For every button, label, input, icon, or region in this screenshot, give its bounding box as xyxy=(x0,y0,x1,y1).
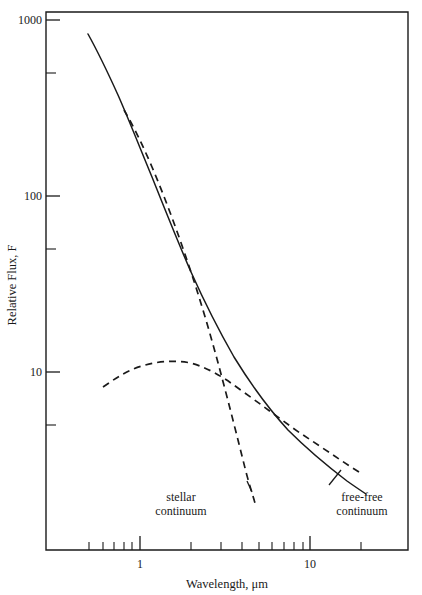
y-tick-label-10: 10 xyxy=(30,365,42,379)
series-stellar-continuum xyxy=(124,110,255,503)
x-tick-label-1: 1 xyxy=(137,557,143,571)
stellar-continuum-label-line2: continuum xyxy=(155,504,207,518)
free-free-continuum-label-line1: free-free xyxy=(341,490,382,504)
x-tick-label-10: 10 xyxy=(304,557,316,571)
stellar-continuum-leader xyxy=(247,481,252,492)
stellar-continuum-label-line1: stellar xyxy=(166,490,195,504)
y-axis-title: Relative Flux, F xyxy=(5,245,19,326)
stellar-continuum-annotation: stellar continuum xyxy=(155,490,207,518)
figure-container: 1000 100 10 1 10 Wavelen xyxy=(0,0,422,595)
x-axis-minor-ticks xyxy=(89,542,361,550)
y-tick-label-100: 100 xyxy=(24,189,42,203)
free-free-continuum-label-line2: continuum xyxy=(336,504,388,518)
x-axis-title: Wavelength, μm xyxy=(186,577,268,591)
flux-wavelength-chart: 1000 100 10 1 10 Wavelen xyxy=(0,0,422,595)
free-free-continuum-annotation: free-free continuum xyxy=(336,490,388,518)
y-tick-label-1000: 1000 xyxy=(18,13,42,27)
series-total-flux xyxy=(88,34,366,494)
